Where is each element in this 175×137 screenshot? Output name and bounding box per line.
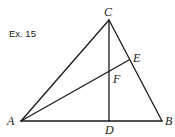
diagram-canvas bbox=[0, 0, 175, 137]
point-label-D: D bbox=[105, 124, 114, 136]
point-label-C: C bbox=[104, 6, 112, 18]
example-label: Ex. 15 bbox=[9, 28, 36, 39]
point-label-A: A bbox=[7, 115, 14, 127]
point-label-E: E bbox=[133, 52, 140, 64]
segment-CB bbox=[109, 20, 162, 121]
segment-AE bbox=[21, 60, 129, 121]
triangle-diagram: Ex. 15 C E F A D B bbox=[0, 0, 175, 137]
point-label-F: F bbox=[113, 73, 120, 85]
point-label-B: B bbox=[165, 115, 172, 127]
